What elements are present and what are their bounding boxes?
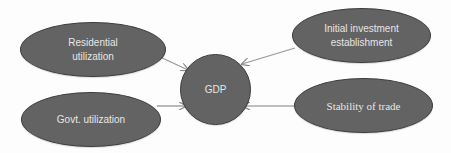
node-initial-investment: Initial investment establishment	[292, 8, 431, 63]
node-gdp: GDP	[180, 54, 251, 125]
node-label: GDP	[205, 83, 227, 97]
node-label: Residential utilization	[68, 36, 117, 64]
edge-investment-to-gdp	[242, 48, 295, 64]
node-label: Stability of trade	[327, 99, 401, 113]
node-residential-utilization: Residential utilization	[20, 22, 166, 77]
node-stability-of-trade: Stability of trade	[294, 78, 433, 133]
node-label: Initial investment establishment	[324, 22, 398, 50]
node-label: Govt. utilization	[57, 113, 125, 127]
edge-residential-to-gdp	[158, 56, 188, 70]
node-govt-utilization: Govt. utilization	[21, 92, 161, 147]
